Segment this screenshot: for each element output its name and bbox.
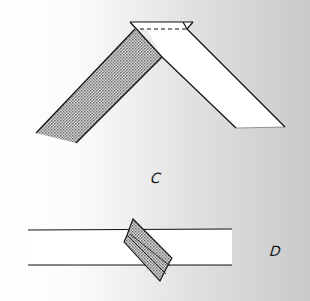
diagram-canvas: C D [0, 0, 310, 301]
strip-white-right-leg [143, 22, 285, 128]
diagram-c [36, 22, 285, 143]
strip-shaded-left-leg [36, 29, 162, 143]
fold-diagram-svg [0, 0, 310, 301]
diagram-d [28, 219, 232, 281]
diagram-label-c: C [150, 170, 161, 186]
diagram-label-d: D [269, 243, 281, 259]
